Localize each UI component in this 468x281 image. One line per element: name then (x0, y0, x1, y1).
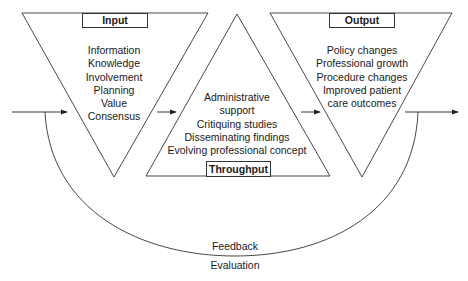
throughput-title: Throughput (206, 161, 271, 177)
output-item: care outcomes (307, 97, 417, 110)
input-item: Planning (64, 84, 164, 97)
input-item: Information (64, 44, 164, 57)
output-item: Procedure changes (307, 71, 417, 84)
input-item: Involvement (64, 71, 164, 84)
throughput-item: Administrative (167, 91, 307, 104)
output-item: Improved patient (307, 84, 417, 97)
output-title: Output (329, 13, 395, 28)
throughput-item: support (167, 104, 307, 117)
output-item: Professional growth (307, 57, 417, 70)
throughput-item: Disseminating findings (167, 131, 307, 144)
throughput-item: Evolving professional concept (167, 144, 307, 157)
evaluation-label: Evaluation (185, 259, 285, 272)
input-item: Knowledge (64, 57, 164, 70)
output-items: Policy changes Professional growth Proce… (307, 44, 417, 110)
throughput-item: Critiquing studies (167, 118, 307, 131)
input-item: Value (64, 97, 164, 110)
input-items: Information Knowledge Involvement Planni… (64, 44, 164, 124)
throughput-items: Administrative support Critiquing studie… (167, 91, 307, 157)
feedback-label: Feedback (185, 240, 285, 253)
input-item: Consensus (64, 110, 164, 123)
input-title: Input (82, 13, 148, 28)
output-item: Policy changes (307, 44, 417, 57)
